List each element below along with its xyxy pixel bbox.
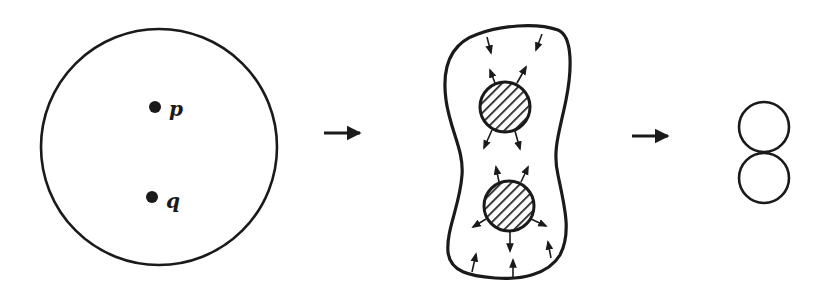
stage2-boundary bbox=[445, 26, 570, 279]
stage1-circle-group: p q bbox=[41, 29, 277, 265]
flow-arrow bbox=[496, 167, 499, 182]
flow-arrow bbox=[473, 219, 486, 227]
stage3-figure-eight bbox=[739, 102, 789, 203]
hatched-disk-p bbox=[480, 82, 530, 132]
upper-circle bbox=[739, 102, 789, 152]
lower-circle bbox=[739, 153, 789, 203]
flow-arrow bbox=[536, 34, 542, 50]
point-q bbox=[146, 191, 158, 203]
point-p bbox=[149, 101, 161, 113]
flow-arrow bbox=[517, 67, 526, 83]
flow-arrow bbox=[548, 242, 551, 258]
stage2-deformed-region bbox=[445, 26, 570, 279]
hatched-disk-q bbox=[484, 181, 534, 231]
flow-arrow bbox=[487, 37, 491, 53]
flow-arrow bbox=[484, 130, 492, 148]
stage1-boundary-circle bbox=[41, 29, 277, 265]
label-p: p bbox=[169, 97, 183, 121]
flow-arrow bbox=[490, 70, 495, 83]
diagram-canvas: p q bbox=[0, 0, 834, 301]
flow-arrow bbox=[472, 254, 476, 272]
flow-arrow bbox=[521, 167, 528, 182]
flow-arrow bbox=[515, 131, 520, 149]
label-q: q bbox=[166, 189, 180, 213]
flow-arrow bbox=[531, 219, 546, 226]
